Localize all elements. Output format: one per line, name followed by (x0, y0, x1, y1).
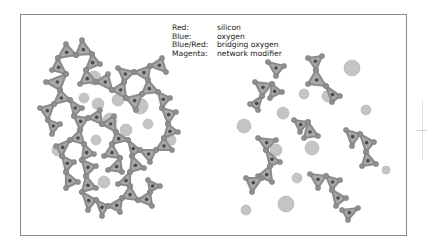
silicon-atom (162, 98, 166, 102)
network-modifier-ion (277, 107, 289, 119)
silicon-atom (86, 77, 90, 81)
silicon-atom (124, 72, 128, 76)
oxygen-atom (63, 185, 68, 190)
silicon-atom (147, 152, 151, 156)
silicon-atom (315, 78, 319, 82)
oxygen-atom (305, 55, 310, 60)
oxygen-atom (99, 213, 104, 218)
silicon-atom (145, 198, 149, 202)
legend-value: network modifier (217, 50, 282, 59)
silicon-atom (270, 158, 274, 162)
oxygen-atom (77, 127, 82, 132)
oxygen-atom (93, 185, 98, 190)
oxygen-atom (141, 165, 146, 170)
silicon-atom (167, 113, 171, 117)
legend: Red: silicon Blue: oxygen Blue/Red: brid… (172, 24, 282, 58)
silicon-atom (128, 193, 132, 197)
legend-key: Magenta: (172, 50, 217, 59)
oxygen-atom (77, 81, 82, 86)
oxygen-atom (75, 179, 80, 184)
oxygen-atom (263, 147, 268, 152)
silicon-atom (74, 106, 78, 110)
oxygen-atom (67, 97, 72, 102)
silicon-atom (95, 116, 99, 120)
network-modifier-ion (98, 176, 110, 188)
oxygen-atom (343, 127, 348, 132)
silicon-atom (46, 109, 50, 113)
oxygen-atom (125, 137, 130, 142)
oxygen-atom (259, 175, 264, 180)
silicon-atom (109, 122, 113, 126)
oxygen-atom (277, 159, 282, 164)
oxygen-atom (79, 37, 84, 42)
silicon-atom (351, 135, 355, 139)
silicon-atom (68, 179, 72, 183)
oxygen-atom (329, 99, 334, 104)
oxygen-atom (149, 203, 154, 208)
oxygen-atom (43, 79, 48, 84)
oxygen-atom (159, 55, 164, 60)
oxygen-atom (165, 121, 170, 126)
oxygen-atom (373, 161, 378, 166)
oxygen-atom (259, 93, 264, 98)
oxygen-atom (305, 119, 310, 124)
oxygen-atom (255, 135, 260, 140)
silicon-atom (61, 146, 65, 150)
network-modifier-ion (361, 105, 371, 115)
oxygen-atom (129, 153, 134, 158)
oxygen-atom (83, 67, 88, 72)
oxygen-atom (115, 65, 120, 70)
oxygen-atom (315, 133, 320, 138)
oxygen-atom (279, 89, 284, 94)
oxygen-atom (167, 95, 172, 100)
oxygen-atom (147, 63, 152, 68)
oxygen-atom (247, 101, 252, 106)
oxygen-atom (55, 55, 60, 60)
oxygen-atom (163, 69, 168, 74)
oxygen-atom (57, 121, 62, 126)
oxygen-atom (57, 87, 62, 92)
oxygen-atom (85, 207, 90, 212)
oxygen-atom (105, 167, 110, 172)
silicon-atom (336, 196, 340, 200)
silicon-atom (366, 159, 370, 163)
silicon-atom (331, 93, 335, 97)
silicon-atom (265, 173, 269, 177)
oxygen-atom (79, 189, 84, 194)
oxygen-atom (265, 59, 270, 64)
network-modifier-ion (241, 205, 251, 215)
oxygen-atom (252, 79, 257, 84)
oxygen-atom (93, 163, 98, 168)
silicon-atom (52, 124, 56, 128)
silicon-atom (117, 137, 121, 141)
oxygen-atom (109, 141, 114, 146)
oxygen-atom (97, 61, 102, 66)
oxygen-atom (337, 177, 342, 182)
oxygen-atom (127, 183, 132, 188)
network-modifier-ion (305, 141, 319, 155)
oxygen-atom (243, 175, 248, 180)
oxygen-atom (63, 169, 68, 174)
silicon-atom (110, 151, 114, 155)
oxygen-atom (135, 197, 140, 202)
oxygen-atom (145, 77, 150, 82)
oxygen-atom (117, 155, 122, 160)
silicon-atom (86, 184, 90, 188)
oxygen-atom (71, 113, 76, 118)
oxygen-atom (131, 69, 136, 74)
silicon-atom (308, 130, 312, 134)
oxygen-atom (273, 137, 278, 142)
silicon-atom (124, 179, 128, 183)
oxygen-atom (81, 141, 86, 146)
oxygen-atom (267, 163, 272, 168)
silicon-atom (314, 60, 318, 64)
silicon-atom (162, 144, 166, 148)
oxygen-atom (79, 105, 84, 110)
network-modifier-ion (278, 196, 294, 212)
sio4-tetrahedron (147, 55, 168, 74)
oxygen-atom (157, 183, 162, 188)
oxygen-atom (267, 95, 272, 100)
sio4-tetrahedron (343, 127, 362, 148)
sio4-tetrahedron (115, 65, 136, 84)
oxygen-atom (63, 71, 68, 76)
